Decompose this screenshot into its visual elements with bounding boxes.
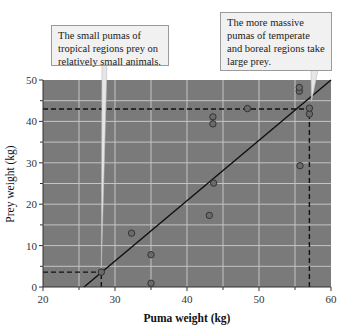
data-point [148,252,154,258]
callout-massive-pumas: The more massive pumas of temperate and … [220,12,332,71]
data-point [206,212,212,218]
data-point [244,105,250,111]
callout-small-pumas: The small pumas of tropical regions prey… [51,25,169,66]
data-point [128,230,134,236]
y-tick-label: 10 [26,240,38,252]
data-point [210,180,216,186]
x-tick-label: 30 [110,293,122,305]
y-axis-title: Prey weight (kg) [4,145,17,222]
data-point [306,105,312,111]
data-point [210,121,216,127]
x-tick-label: 60 [326,293,338,305]
data-point [98,269,104,275]
y-tick-label: 30 [26,157,38,169]
data-point [297,162,303,168]
plot-area [43,80,331,287]
x-tick-label: 20 [38,293,50,305]
y-tick-label: 50 [26,74,38,86]
y-tick-label: 0 [32,281,38,293]
y-tick-label: 20 [26,198,38,210]
x-axis-title: Puma weight (kg) [144,312,231,325]
data-point [296,84,302,90]
data-point [210,114,216,120]
x-tick-label: 40 [182,293,194,305]
data-point [148,280,154,286]
y-tick-label: 40 [26,115,38,127]
x-tick-label: 50 [254,293,266,305]
